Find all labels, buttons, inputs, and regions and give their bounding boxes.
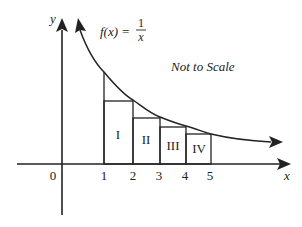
x-tick-4: 4 xyxy=(182,168,189,183)
x-tick-3: 3 xyxy=(156,168,163,183)
x-axis-label: x xyxy=(283,168,290,183)
y-axis xyxy=(56,18,68,215)
y-axis-arrow-icon xyxy=(56,18,68,32)
region-label-IV: IV xyxy=(192,141,206,156)
curve-right-arrow-icon xyxy=(269,136,283,148)
region-label-I: I xyxy=(116,127,120,142)
function-denominator: x xyxy=(137,30,144,44)
x-tick-5: 5 xyxy=(207,168,214,183)
function-label: f(x) = 1 x xyxy=(100,16,146,44)
region-label-II: II xyxy=(142,132,151,147)
x-tick-1: 1 xyxy=(101,168,108,183)
y-axis-label: y xyxy=(48,11,56,26)
riemann-sum-diagram: I II III IV y x 0 1 2 3 4 5 f(x) = 1 x N… xyxy=(0,0,302,227)
not-to-scale-note: Not to Scale xyxy=(170,59,235,74)
region-label-III: III xyxy=(167,138,180,153)
function-numerator: 1 xyxy=(138,16,144,30)
origin-label: 0 xyxy=(50,168,57,183)
x-tick-2: 2 xyxy=(130,168,137,183)
function-name: f(x) = xyxy=(100,24,130,39)
